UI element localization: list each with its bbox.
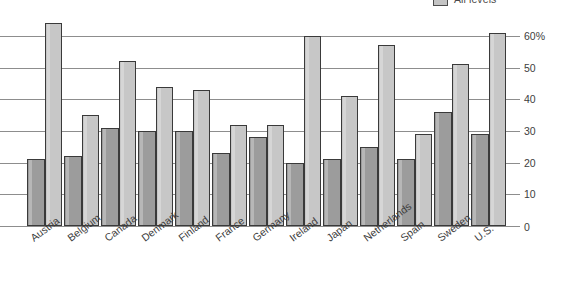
bar-highlight <box>195 91 198 225</box>
bar-highlight <box>103 129 106 225</box>
bar-highlight <box>454 65 457 225</box>
bar-japan-all-levels <box>341 96 359 226</box>
bar-netherlands-all-levels <box>378 45 396 226</box>
y-tick-label-20: 20 <box>524 157 536 169</box>
bars-group <box>0 20 520 227</box>
bar-highlight <box>306 37 309 225</box>
y-tick-label-40: 40 <box>524 93 536 105</box>
bar-finland-lower-secondary <box>175 131 193 226</box>
bar-highlight <box>343 97 346 225</box>
bar-france-lower-secondary <box>212 153 230 226</box>
bar-sweden-all-levels <box>452 64 470 226</box>
chart-legend: All levels <box>433 0 496 8</box>
bar-highlight <box>121 62 124 225</box>
bar-highlight <box>325 160 328 225</box>
y-tick-label-50: 50 <box>524 62 536 74</box>
bar-canada-all-levels <box>119 61 137 226</box>
y-tick-label-10: 10 <box>524 188 536 200</box>
bar-highlight <box>84 116 87 225</box>
bar-finland-all-levels <box>193 90 211 226</box>
bar-highlight <box>232 126 235 225</box>
bar-highlight <box>491 34 494 225</box>
bar-belgium-all-levels <box>82 115 100 226</box>
legend-label-all-levels: All levels <box>454 0 496 5</box>
bar-austria-all-levels <box>45 23 63 226</box>
bar-highlight <box>362 148 365 225</box>
bar-chart: All levels 102030405060% AustriaBelgiumC… <box>0 0 562 299</box>
bar-highlight <box>214 154 217 225</box>
x-axis-labels-group: AustriaBelgiumCanadaDenmarkFinlandFrance… <box>0 228 520 299</box>
y-axis-zero-label: 0 <box>524 221 530 233</box>
bar-highlight <box>140 132 143 225</box>
bar-highlight <box>473 135 476 225</box>
bar-highlight <box>29 160 32 225</box>
bar-belgium-lower-secondary <box>64 156 82 226</box>
y-tick-label-60: 60% <box>524 30 545 42</box>
bar-spain-all-levels <box>415 134 433 226</box>
bar-germany-lower-secondary <box>249 137 267 226</box>
bar-canada-lower-secondary <box>101 128 119 226</box>
legend-swatch-all-levels <box>433 0 448 6</box>
plot-area: 102030405060% <box>0 20 520 227</box>
bar-highlight <box>380 46 383 225</box>
bar-denmark-lower-secondary <box>138 131 156 226</box>
bar-highlight <box>436 113 439 225</box>
bar-austria-lower-secondary <box>27 159 45 226</box>
bar-highlight <box>269 126 272 225</box>
bar-ireland-all-levels <box>304 36 322 226</box>
bar-highlight <box>251 138 254 225</box>
bar-highlight <box>417 135 420 225</box>
bar-highlight <box>177 132 180 225</box>
bar-netherlands-lower-secondary <box>360 147 378 226</box>
bar-sweden-lower-secondary <box>434 112 452 226</box>
bar-us-all-levels <box>489 33 507 226</box>
bar-highlight <box>66 157 69 225</box>
y-tick-label-30: 30 <box>524 125 536 137</box>
bar-highlight <box>158 88 161 225</box>
bar-us-lower-secondary <box>471 134 489 226</box>
bar-japan-lower-secondary <box>323 159 341 226</box>
bar-france-all-levels <box>230 125 248 226</box>
bar-denmark-all-levels <box>156 87 174 226</box>
bar-highlight <box>47 24 50 225</box>
